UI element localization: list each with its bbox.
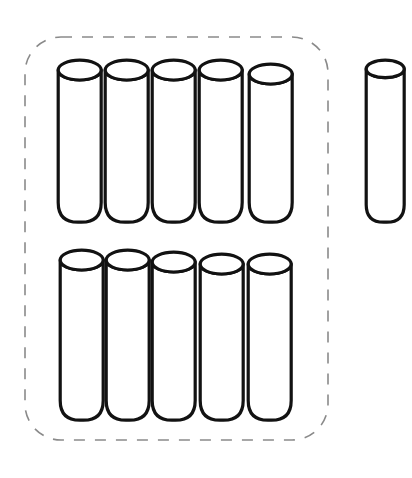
rod-body [248, 264, 291, 420]
rod-body [249, 74, 292, 222]
rod-top-4 [196, 57, 245, 225]
rod-shape [246, 61, 295, 225]
rod-shape [197, 251, 246, 423]
rod-shape [149, 249, 198, 423]
rod-bottom-4 [197, 251, 246, 423]
rod-top-5 [246, 61, 295, 225]
rod-shape [245, 251, 294, 423]
rod-body [58, 70, 101, 222]
rod-body [152, 70, 195, 222]
rod-top-rim [248, 254, 291, 274]
rod-top-rim [249, 64, 292, 84]
rod-top-rim [200, 254, 243, 274]
rod-top-rim [105, 60, 148, 80]
rod-top-3 [149, 57, 198, 225]
rod-body [152, 262, 195, 420]
rod-top-rim [60, 250, 103, 270]
rod-body [105, 70, 148, 222]
rod-bottom-2 [103, 247, 152, 423]
rod-top-rim [366, 60, 404, 77]
rod-shape [55, 57, 104, 225]
rod-shape [102, 57, 151, 225]
rod-loose-1 [363, 57, 407, 225]
rod-top-rim [152, 252, 195, 272]
rod-shape [196, 57, 245, 225]
rod-top-2 [102, 57, 151, 225]
rod-body [60, 260, 103, 420]
rod-body [106, 260, 149, 420]
rod-bottom-5 [245, 251, 294, 423]
rod-shape [149, 57, 198, 225]
rod-body [200, 264, 243, 420]
rod-shape [103, 247, 152, 423]
rod-shape [363, 57, 407, 225]
rod-body [199, 70, 242, 222]
rod-top-rim [199, 60, 242, 80]
illustration-canvas [0, 0, 412, 478]
rod-top-rim [152, 60, 195, 80]
rod-top-rim [58, 60, 101, 80]
rod-bottom-1 [57, 247, 106, 423]
rod-shape [57, 247, 106, 423]
rod-body [366, 69, 404, 222]
rod-top-rim [106, 250, 149, 270]
rod-bottom-3 [149, 249, 198, 423]
rod-top-1 [55, 57, 104, 225]
